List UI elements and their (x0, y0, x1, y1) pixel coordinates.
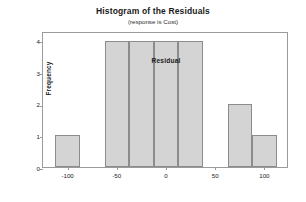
x-tick-label: -50 (99, 172, 135, 179)
y-tick-label: 1 (37, 133, 40, 140)
x-axis-label: Residual (43, 57, 289, 64)
x-tick-label: -100 (50, 172, 86, 179)
histogram-bar (55, 135, 80, 167)
x-tick-mark (166, 167, 167, 170)
page-title: Histogram of the Residuals (0, 6, 306, 17)
x-tick-mark (117, 167, 118, 170)
plot-frame: Frequency 01234 -100-50050100 Residual (42, 32, 288, 168)
x-tick-label: 0 (148, 172, 184, 179)
y-tick-label: 4 (37, 38, 40, 45)
histogram-bar (228, 104, 253, 167)
x-tick-label: 100 (246, 172, 282, 179)
histogram-bar (252, 135, 277, 167)
y-tick-label: 0 (37, 165, 40, 172)
y-tick-mark (40, 169, 43, 170)
y-tick-label: 3 (37, 70, 40, 77)
y-tick-label: 2 (37, 101, 40, 108)
x-tick-label: 50 (197, 172, 233, 179)
histogram-figure: Histogram of the Residuals (response is … (0, 0, 306, 202)
chart-subtitle: (response is Cost) (0, 17, 306, 26)
plot-area (43, 33, 287, 167)
title-block: Histogram of the Residuals (response is … (0, 6, 306, 26)
x-tick-mark (215, 167, 216, 170)
x-tick-mark (68, 167, 69, 170)
x-tick-mark (264, 167, 265, 170)
